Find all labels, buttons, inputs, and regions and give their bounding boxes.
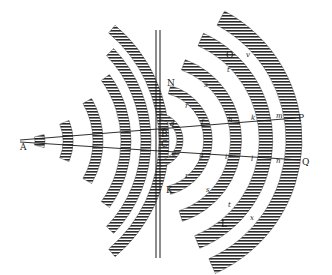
label-P: P — [298, 113, 304, 123]
label-L: L — [221, 219, 227, 229]
incident-wavefront — [34, 134, 45, 147]
incident-wavefronts — [34, 25, 169, 256]
label-arc-s-lower: s — [206, 186, 210, 194]
label-n: n — [276, 157, 281, 165]
label-arc-s-upper: s — [204, 81, 208, 89]
label-h: h — [228, 116, 233, 124]
label-arc-t-upper: t — [227, 66, 230, 74]
label-K: K — [166, 185, 173, 195]
label-O: O — [226, 50, 233, 60]
incident-wavefront — [83, 99, 103, 184]
label-d: d — [170, 120, 175, 128]
label-e: e — [172, 150, 176, 158]
label-B: B — [161, 129, 168, 139]
label-g: g — [199, 151, 204, 159]
label-Q: Q — [302, 157, 309, 167]
label-arc-v-upper: v — [246, 51, 250, 59]
huygens-refraction-diagram: A B C N K O L P Q d f h k m e g i l n r … — [0, 0, 332, 275]
label-l: l — [251, 155, 253, 163]
label-arc-x-lower: x — [250, 214, 254, 222]
label-i: i — [225, 153, 227, 161]
incident-wavefront — [60, 120, 73, 161]
label-A: A — [19, 142, 27, 152]
label-N: N — [167, 78, 175, 88]
label-C: C — [161, 139, 168, 149]
label-k: k — [251, 114, 255, 122]
label-m: m — [276, 112, 283, 120]
incident-wavefront — [101, 75, 131, 208]
label-arc-t-lower: t — [228, 201, 231, 209]
refracted-wavefront — [168, 86, 212, 195]
